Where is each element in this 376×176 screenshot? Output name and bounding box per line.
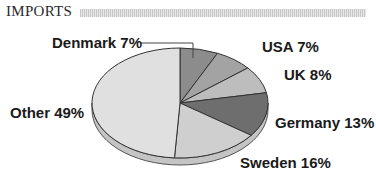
slice-label-germany: Germany 13% — [275, 114, 374, 131]
pie-slice-other — [92, 48, 180, 158]
slice-label-uk: UK 8% — [284, 66, 332, 83]
slice-label-other: Other 49% — [10, 104, 84, 121]
slice-label-denmark: Denmark 7% — [52, 34, 142, 51]
slice-label-sweden: Sweden 16% — [240, 154, 331, 171]
slice-label-usa: USA 7% — [262, 38, 319, 55]
pie-chart: Denmark 7%USA 7%UK 8%Germany 13%Sweden 1… — [0, 0, 376, 176]
